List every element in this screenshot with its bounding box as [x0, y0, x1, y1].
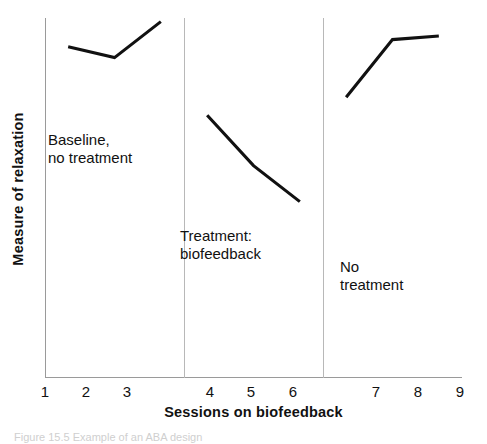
y-axis-title-text: Measure of relaxation	[10, 112, 26, 265]
series-line-no-treatment	[346, 36, 439, 97]
data-series-group	[45, 18, 462, 378]
x-tick-label-9: 9	[449, 383, 471, 400]
figure-caption: Figure 15.5 Example of an ABA design	[14, 431, 474, 444]
x-tick-label-3: 3	[116, 383, 138, 400]
x-tick-label-6: 6	[282, 383, 304, 400]
phase-annotation-treatment: Treatment: biofeedback	[180, 227, 261, 264]
x-tick-label-8: 8	[407, 383, 429, 400]
y-axis-title: Measure of relaxation	[0, 0, 36, 378]
x-tick-label-5: 5	[240, 383, 262, 400]
x-axis-title: Sessions on biofeedback	[45, 404, 462, 420]
plot-area	[45, 18, 462, 378]
series-line-baseline	[68, 22, 161, 58]
x-tick-label-2: 2	[75, 383, 97, 400]
x-tick-label-4: 4	[199, 383, 221, 400]
figure-container: Measure of relaxation Baseline, no treat…	[0, 0, 487, 444]
x-tick-label-7: 7	[365, 383, 387, 400]
phase-annotation-no-treatment: No treatment	[340, 258, 403, 295]
phase-annotation-baseline: Baseline, no treatment	[48, 131, 132, 168]
x-tick-label-1: 1	[34, 383, 56, 400]
series-line-treatment	[207, 115, 300, 201]
